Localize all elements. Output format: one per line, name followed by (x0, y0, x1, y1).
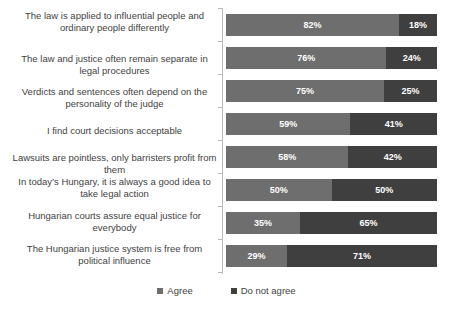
bar-segment-disagree: 18% (399, 14, 437, 36)
bar-segment-agree: 75% (226, 80, 384, 102)
bar-segment-disagree: 50% (332, 179, 438, 201)
table-row: 82% 18% (226, 14, 437, 36)
bar-segment-disagree: 71% (287, 245, 437, 267)
bar-segment-agree: 76% (226, 47, 386, 69)
bar-segment-agree: 82% (226, 14, 399, 36)
axis-tick (218, 173, 222, 174)
bar-segment-agree: 50% (226, 179, 332, 201)
chart-legend: Agree Do not agree (0, 285, 453, 296)
legend-swatch-icon (157, 288, 163, 294)
legend-swatch-icon (231, 288, 237, 294)
table-row: 75% 25% (226, 80, 437, 102)
bar-segment-agree: 35% (226, 212, 300, 234)
axis-tick (218, 107, 222, 108)
category-label: The law is applied to influential people… (12, 10, 217, 34)
category-axis-line (222, 8, 223, 274)
bar-segment-agree: 58% (226, 146, 348, 168)
bar-segment-disagree: 41% (350, 113, 437, 135)
stacked-bar-chart: The law is applied to influential people… (0, 0, 453, 315)
bar-segment-disagree: 24% (386, 47, 437, 69)
category-label: Lawsuits are pointless, only barristers … (12, 152, 217, 176)
bar-segment-disagree: 42% (348, 146, 437, 168)
axis-tick (218, 41, 222, 42)
category-label: In today’s Hungary, it is always a good … (12, 176, 217, 200)
legend-item-agree: Agree (157, 285, 192, 296)
table-row: 35% 65% (226, 212, 437, 234)
bar-segment-agree: 29% (226, 245, 287, 267)
bar-segment-disagree: 65% (300, 212, 437, 234)
axis-tick (218, 239, 222, 240)
table-row: 76% 24% (226, 47, 437, 69)
plot-area: 82% 18% 76% 24% 75% 25% 59% 41% 58% 42% … (222, 8, 437, 274)
axis-tick (218, 8, 222, 9)
axis-tick (218, 206, 222, 207)
table-row: 29% 71% (226, 245, 437, 267)
table-row: 50% 50% (226, 179, 437, 201)
category-label: I find court decisions acceptable (12, 125, 217, 137)
axis-tick (218, 74, 222, 75)
table-row: 58% 42% (226, 146, 437, 168)
axis-tick (218, 140, 222, 141)
category-label: Hungarian courts assure equal justice fo… (12, 210, 217, 234)
table-row: 59% 41% (226, 113, 437, 135)
category-label: The Hungarian justice system is free fro… (12, 243, 217, 267)
legend-label: Agree (167, 285, 192, 296)
bar-segment-disagree: 25% (384, 80, 437, 102)
legend-item-do-not-agree: Do not agree (231, 285, 296, 296)
legend-label: Do not agree (241, 285, 296, 296)
axis-tick (218, 272, 222, 273)
bar-segment-agree: 59% (226, 113, 350, 135)
category-label: Verdicts and sentences often depend on t… (12, 86, 217, 110)
category-label: The law and justice often remain separat… (12, 53, 217, 77)
